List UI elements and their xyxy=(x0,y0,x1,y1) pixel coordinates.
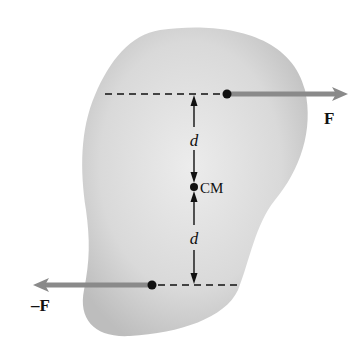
center-of-mass-point xyxy=(190,183,198,191)
force-F-label: F xyxy=(324,109,334,128)
force-negF-label: –F xyxy=(30,296,50,315)
force-F-application-point xyxy=(223,90,232,99)
distance-label-bottom: d xyxy=(190,229,199,248)
force-negF-application-point xyxy=(148,281,157,290)
distance-label-top: d xyxy=(190,131,199,150)
center-of-mass-label: CM xyxy=(200,180,223,196)
force-couple-diagram: d d CM F –F xyxy=(0,0,363,344)
rigid-body-shape xyxy=(82,27,307,336)
